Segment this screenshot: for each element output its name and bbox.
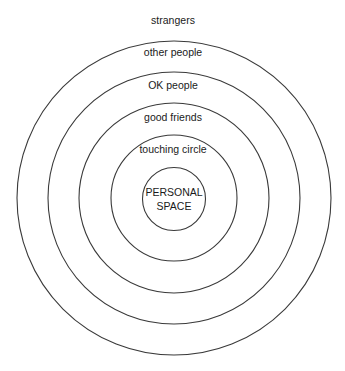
label-ok-people: OK people xyxy=(148,79,198,91)
label-other-people: other people xyxy=(144,46,203,58)
ring-good-friends xyxy=(79,103,269,293)
label-good-friends: good friends xyxy=(144,111,202,123)
personal-space-diagram: strangers other people OK people good fr… xyxy=(0,0,345,371)
label-touching-circle: touching circle xyxy=(139,143,206,155)
ring-ok-people xyxy=(48,72,300,324)
label-strangers: strangers xyxy=(151,14,195,26)
ring-personal-space xyxy=(143,168,206,231)
label-personal: PERSONAL xyxy=(145,186,202,198)
label-space: SPACE xyxy=(157,200,192,212)
